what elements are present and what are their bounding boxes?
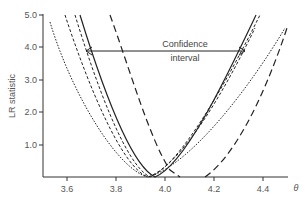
y-axis-label: LR statistic	[7, 73, 17, 118]
annotation-interval: interval	[170, 53, 199, 63]
x-tick-3.8: 3.8	[110, 184, 123, 194]
x-tick-4.2: 4.2	[208, 184, 221, 194]
lr-statistic-chart: 5.0 4.0 3.0 2.0 1.0 3.6 3.8 4.0 4.2 4.4 …	[0, 0, 307, 202]
y-tick-3: 3.0	[24, 75, 37, 85]
x-tick-3.6: 3.6	[61, 184, 74, 194]
y-ticks	[39, 15, 43, 145]
x-tick-4.0: 4.0	[159, 184, 172, 194]
x-tick-4.4: 4.4	[257, 184, 270, 194]
y-tick-labels: 5.0 4.0 3.0 2.0 1.0	[24, 10, 37, 150]
x-ticks	[67, 177, 263, 181]
y-tick-4: 4.0	[24, 42, 37, 52]
y-tick-1: 1.0	[24, 140, 37, 150]
y-tick-2: 2.0	[24, 107, 37, 117]
x-tick-labels: 3.6 3.8 4.0 4.2 4.4	[61, 184, 270, 194]
y-tick-5: 5.0	[24, 10, 37, 20]
x-axis-label: θ	[294, 183, 299, 193]
annotation-confidence: Confidence	[162, 39, 208, 49]
curve-long-dash-right	[205, 25, 288, 177]
